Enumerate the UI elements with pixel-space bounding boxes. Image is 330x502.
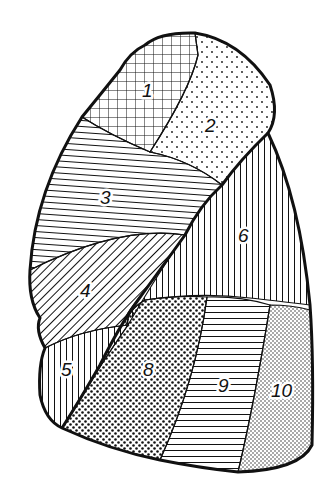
lung-diagram: 1 2 3 4 5 6 8 9 10 — [0, 0, 330, 502]
segment-label-8: 8 — [143, 359, 154, 380]
segment-label-3: 3 — [100, 187, 111, 208]
segment-label-1: 1 — [142, 80, 153, 101]
segment-label-5: 5 — [61, 359, 72, 380]
lung-diagram-svg: 1 2 3 4 5 6 8 9 10 — [0, 0, 330, 502]
segment-label-4: 4 — [80, 280, 91, 301]
segment-label-2: 2 — [204, 115, 216, 136]
segment-label-6: 6 — [238, 225, 249, 246]
segment-label-9: 9 — [218, 375, 229, 396]
segment-label-10: 10 — [271, 380, 293, 401]
